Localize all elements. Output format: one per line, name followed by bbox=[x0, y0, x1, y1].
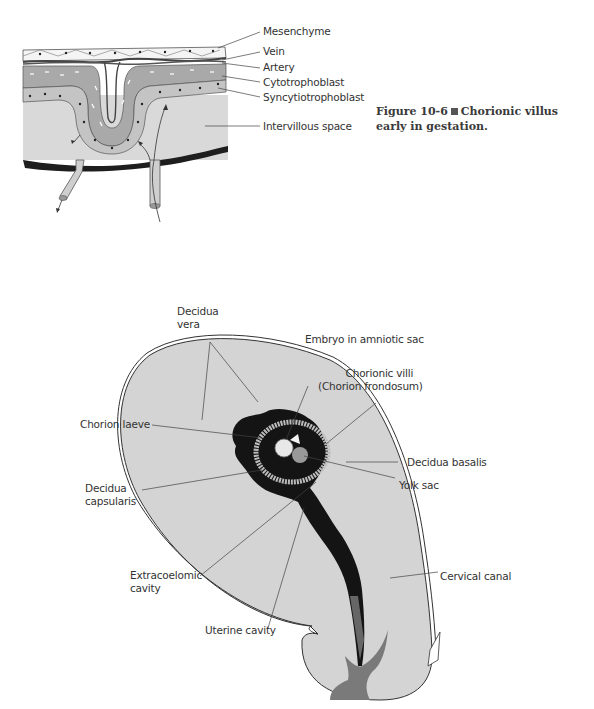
label-uterine-cavity: Uterine cavity bbox=[205, 624, 276, 637]
label-extracoelomic-line1: Extracoelomic bbox=[130, 569, 202, 582]
label-chorionic-villi: Chorionic villi (Chorion frondosum) bbox=[336, 367, 423, 393]
label-chorionic-villi-line2: (Chorion frondosum) bbox=[318, 380, 423, 393]
label-decidua-capsularis: Decidua capsularis bbox=[85, 482, 136, 508]
label-decidua-vera: Decidua vera bbox=[177, 305, 219, 331]
label-cytotrophoblast: Cytotrophoblast bbox=[263, 76, 344, 89]
label-decidua-basalis: Decidua basalis bbox=[407, 456, 487, 469]
label-cervical-canal: Cervical canal bbox=[440, 570, 511, 583]
label-decidua-vera-line1: Decidua bbox=[177, 305, 219, 318]
label-embryo-amniotic-sac: Embryo in amniotic sac bbox=[305, 333, 424, 346]
label-decidua-capsularis-line2: capsularis bbox=[85, 495, 136, 508]
figure-number: Figure 10-6 bbox=[376, 105, 448, 118]
label-extracoelomic-line2: cavity bbox=[130, 582, 202, 595]
label-intervillous-space: Intervillous space bbox=[263, 120, 352, 133]
label-extracoelomic-cavity: Extracoelomic cavity bbox=[130, 569, 202, 595]
yolk-sac bbox=[292, 447, 308, 463]
label-chorion-laeve: Chorion laeve bbox=[80, 418, 150, 431]
label-decidua-capsularis-line1: Decidua bbox=[85, 482, 136, 495]
label-syncytiotrophoblast: Syncytiotrophoblast bbox=[263, 91, 364, 104]
embryo bbox=[275, 439, 293, 457]
caption-square-icon bbox=[451, 108, 458, 115]
label-artery: Artery bbox=[263, 61, 294, 74]
label-decidua-vera-line2: vera bbox=[177, 318, 219, 331]
label-mesenchyme: Mesenchyme bbox=[263, 25, 330, 38]
label-chorionic-villi-line1: Chorionic villi bbox=[336, 367, 423, 380]
label-vein: Vein bbox=[263, 45, 285, 58]
figure-caption: Figure 10-6Chorionic villus early in ges… bbox=[376, 104, 576, 134]
label-yolk-sac: Yolk sac bbox=[399, 479, 439, 492]
